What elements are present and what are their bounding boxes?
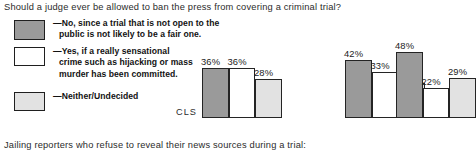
bar-yes xyxy=(423,88,450,118)
bar-value-label: 29% xyxy=(448,66,467,77)
bar-value-label: 48% xyxy=(395,40,414,51)
bar-value-label: 22% xyxy=(422,76,441,87)
bottom-question-text: Jailing reporters who refuse to reveal t… xyxy=(4,140,306,150)
bar-no xyxy=(396,52,423,118)
bar-neither xyxy=(449,78,476,118)
